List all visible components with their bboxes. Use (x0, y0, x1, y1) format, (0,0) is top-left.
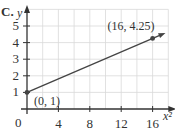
option-label: C. (1, 4, 14, 19)
x-tick-label: 12 (115, 116, 128, 131)
line-chart: 48121612345 C. y x² 0 (0, 1) (16, 4.25) (0, 0, 175, 135)
y-tick-label: 2 (13, 68, 20, 83)
data-point-end (150, 36, 155, 41)
y-tick-label: 5 (13, 18, 20, 33)
data-line (27, 35, 161, 93)
origin-label: 0 (15, 115, 22, 130)
axis-ticks: 48121612345 (13, 18, 160, 131)
line-arrow-icon (158, 33, 165, 38)
y-tick-label: 4 (13, 35, 20, 50)
point-annotation-start: (0, 1) (34, 94, 60, 108)
x-tick-label: 16 (146, 116, 160, 131)
data-point-start (25, 90, 30, 95)
x-tick-label: 4 (55, 116, 62, 131)
point-annotation-end: (16, 4.25) (108, 19, 155, 33)
y-tick-label: 3 (13, 51, 20, 66)
y-tick-label: 1 (13, 84, 20, 99)
y-axis-label: y (16, 6, 23, 20)
x-axis-label: x² (162, 109, 172, 123)
x-tick-label: 8 (87, 116, 94, 131)
